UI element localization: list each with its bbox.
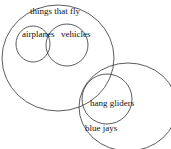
label-vehicles: vehicles [61,30,91,39]
things-that-fly-circle [2,5,114,111]
venn-diagram: things that fly airplanes vehicles hang … [0,0,171,149]
label-airplanes: airplanes [22,30,54,39]
label-blue-jays: blue jays [85,124,117,133]
label-hang-gliders: hang gliders [90,99,134,108]
label-things-that-fly: things that fly [30,7,80,16]
